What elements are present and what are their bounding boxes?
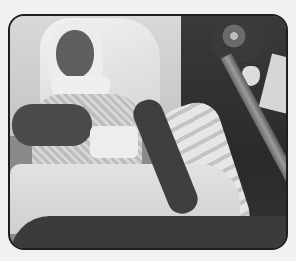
photo-frame: Grayscale photograph in a rounded-corner…: [8, 14, 288, 250]
patient-face: [56, 30, 94, 78]
left-arm: [12, 104, 92, 146]
bandaged-hand: [90, 126, 138, 158]
flower-bouquet: [210, 18, 270, 63]
dark-blanket: [10, 216, 288, 250]
